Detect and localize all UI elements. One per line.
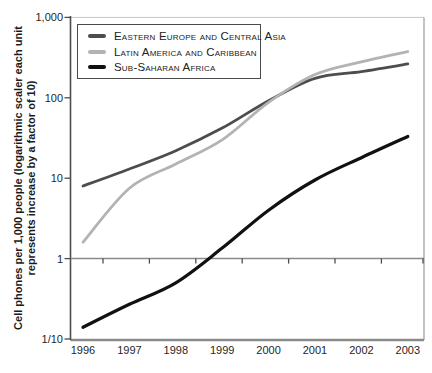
legend-line-swatch xyxy=(88,50,106,54)
series-line-sub-saharan-africa xyxy=(83,137,408,328)
legend: Eastern Europe and Central Asia Latin Am… xyxy=(77,24,261,79)
legend-label: Latin America and Caribbean xyxy=(114,46,257,58)
y-tick-label: 1,000 xyxy=(0,11,63,23)
legend-line-swatch xyxy=(88,65,106,69)
y-tick-label: 100 xyxy=(0,92,63,104)
y-tick-label: 1/10 xyxy=(0,333,63,345)
cell-phones-log-chart: Cell phones per 1,000 people (logarithmi… xyxy=(0,0,432,373)
x-tick-label: 1998 xyxy=(153,344,199,356)
x-tick-label: 1996 xyxy=(60,344,106,356)
x-tick-label: 2003 xyxy=(385,344,431,356)
y-tick-label: 10 xyxy=(0,172,63,184)
x-tick-label: 2000 xyxy=(246,344,292,356)
legend-label: Eastern Europe and Central Asia xyxy=(114,30,286,42)
legend-line-swatch xyxy=(88,34,106,38)
series-line-latin-america-and-caribbean xyxy=(83,52,408,243)
series-line-eastern-europe-and-central-asia xyxy=(83,64,408,186)
legend-item: Eastern Europe and Central Asia xyxy=(88,30,260,42)
legend-item: Sub-Saharan Africa xyxy=(88,61,260,73)
legend-item: Latin America and Caribbean xyxy=(88,46,260,58)
y-tick-label: 1 xyxy=(0,253,63,265)
x-tick-label: 1999 xyxy=(199,344,245,356)
legend-label: Sub-Saharan Africa xyxy=(114,61,215,73)
x-tick-label: 2002 xyxy=(338,344,384,356)
x-tick-label: 2001 xyxy=(292,344,338,356)
x-tick-label: 1997 xyxy=(106,344,152,356)
